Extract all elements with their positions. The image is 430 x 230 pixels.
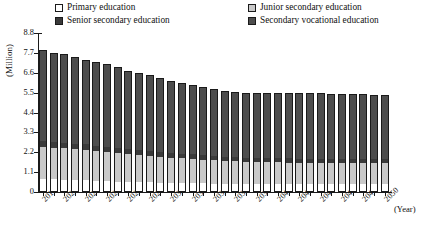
- bar-segment: [167, 158, 175, 183]
- bar-segment: [327, 163, 335, 184]
- bar-segment: [189, 159, 197, 183]
- bar-segment: [167, 183, 175, 192]
- legend-label: Junior secondary education: [260, 3, 362, 12]
- bar-2047: [349, 33, 357, 192]
- bar-2027: [135, 33, 143, 192]
- bar-2028: [146, 33, 154, 192]
- bar-2046: [338, 33, 346, 192]
- y-tick-label: 2.2: [24, 148, 34, 156]
- y-tick-label: 4.4: [24, 109, 34, 117]
- bar-segment: [242, 162, 250, 184]
- bar-segment: [295, 93, 303, 159]
- bar-segment: [295, 184, 303, 192]
- bar-segment: [71, 180, 79, 192]
- bar-segment: [60, 54, 68, 143]
- bar-segment: [189, 85, 197, 154]
- bar-segment: [210, 160, 218, 183]
- bar-segment: [156, 78, 164, 152]
- bar-segment: [114, 67, 122, 148]
- chart-legend: Primary education Junior secondary educa…: [55, 2, 425, 26]
- bar-segment: [39, 147, 47, 179]
- bar-segment: [167, 81, 175, 153]
- bar-segment: [295, 163, 303, 184]
- bar-segment: [381, 184, 389, 192]
- bar-2049: [370, 33, 378, 192]
- y-tick-label: 5.5: [24, 89, 34, 97]
- bar-segment: [50, 142, 58, 148]
- stacked-bar-chart: Primary education Junior secondary educa…: [0, 0, 430, 230]
- legend-swatch-icon: [248, 17, 256, 25]
- y-tick-label: 1.1: [24, 168, 34, 176]
- bar-2020: [60, 33, 68, 192]
- bar-segment: [39, 50, 47, 141]
- bar-segment: [349, 184, 357, 192]
- bar-segment: [221, 184, 229, 192]
- bar-2023: [92, 33, 100, 192]
- bar-segment: [39, 179, 47, 192]
- bar-segment: [178, 83, 186, 154]
- legend-row-2: Senior secondary education Secondary voc…: [55, 15, 425, 26]
- bar-segment: [103, 152, 111, 181]
- bar-segment: [263, 162, 271, 184]
- bar-segment: [253, 162, 261, 184]
- bar-segment: [114, 182, 122, 192]
- bar-2050: [381, 33, 389, 192]
- bar-segment: [285, 184, 293, 192]
- bar-segment: [338, 184, 346, 192]
- bar-segment: [71, 57, 79, 144]
- bar-segment: [114, 148, 122, 153]
- bar-segment: [189, 154, 197, 159]
- bar-segment: [359, 159, 367, 163]
- bar-segment: [253, 93, 261, 158]
- bar-segment: [103, 147, 111, 152]
- bar-segment: [327, 159, 335, 163]
- bar-segment: [124, 154, 132, 182]
- bar-segment: [156, 152, 164, 157]
- bar-segment: [349, 94, 357, 159]
- bar-segment: [39, 141, 47, 147]
- bar-segment: [274, 184, 282, 192]
- y-tick-label: 3.3: [24, 128, 34, 136]
- bar-segment: [295, 159, 303, 163]
- bar-segment: [317, 159, 325, 163]
- bar-segment: [359, 163, 367, 184]
- bar-segment: [242, 184, 250, 192]
- legend-swatch-icon: [55, 17, 63, 25]
- legend-swatch-icon: [248, 4, 256, 12]
- bar-segment: [146, 75, 154, 151]
- bar-segment: [178, 154, 186, 159]
- bar-segment: [231, 184, 239, 192]
- bar-segment: [92, 62, 100, 146]
- bar-segment: [338, 159, 346, 163]
- legend-swatch-icon: [55, 4, 63, 12]
- bar-segment: [156, 183, 164, 192]
- bar-2041: [285, 33, 293, 192]
- bar-segment: [82, 144, 90, 149]
- bar-segment: [317, 163, 325, 184]
- bar-segment: [381, 159, 389, 163]
- bar-segment: [60, 143, 68, 149]
- bar-segment: [306, 159, 314, 163]
- bar-segment: [381, 163, 389, 184]
- bar-2048: [359, 33, 367, 192]
- bar-2025: [114, 33, 122, 192]
- bar-segment: [71, 149, 79, 180]
- bar-segment: [317, 184, 325, 192]
- bar-2038: [253, 33, 261, 192]
- bar-2037: [242, 33, 250, 192]
- bar-segment: [167, 153, 175, 158]
- bar-2045: [327, 33, 335, 192]
- bar-2033: [199, 33, 207, 192]
- bar-segment: [231, 157, 239, 161]
- bar-segment: [146, 156, 154, 182]
- bar-segment: [156, 157, 164, 183]
- bar-2029: [156, 33, 164, 192]
- bar-segment: [306, 93, 314, 159]
- plot-area: [39, 33, 391, 192]
- bar-segment: [285, 93, 293, 159]
- bar-segment: [274, 162, 282, 184]
- bar-segment: [253, 158, 261, 162]
- bar-segment: [92, 146, 100, 151]
- legend-label: Senior secondary education: [67, 16, 170, 25]
- bar-2039: [263, 33, 271, 192]
